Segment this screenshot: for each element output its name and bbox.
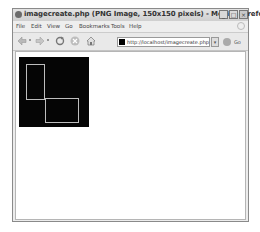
- forward-arrow-icon[interactable]: [35, 36, 45, 46]
- go-icon[interactable]: [223, 38, 231, 46]
- stop-icon[interactable]: [70, 36, 80, 46]
- browser-window: imagecreate.php (PNG Image, 150x150 pixe…: [12, 8, 249, 222]
- url-bar[interactable]: http://localhost/imagecreate.php: [117, 37, 210, 47]
- image-rectangle-2: [45, 98, 79, 123]
- url-history-dropdown[interactable]: ▾: [211, 37, 219, 47]
- menu-view[interactable]: View: [47, 23, 60, 29]
- maximize-button[interactable]: □: [229, 10, 238, 19]
- forward-dropdown-icon[interactable]: [47, 39, 49, 41]
- reload-icon[interactable]: [55, 36, 65, 46]
- back-arrow-icon[interactable]: [17, 36, 27, 46]
- firefox-icon: [15, 11, 22, 18]
- png-image: [19, 57, 89, 127]
- home-icon[interactable]: [86, 36, 96, 46]
- menu-bar: File Edit View Go Bookmarks Tools Help: [13, 21, 248, 33]
- page-content: [15, 51, 246, 220]
- close-button[interactable]: ×: [239, 10, 248, 19]
- back-dropdown-icon[interactable]: [29, 39, 31, 41]
- menu-help[interactable]: Help: [129, 23, 142, 29]
- page-favicon: [119, 39, 125, 45]
- image-rectangle-1: [26, 64, 45, 100]
- url-input[interactable]: http://localhost/imagecreate.php: [127, 39, 209, 45]
- navigation-toolbar: http://localhost/imagecreate.php ▾ Go: [13, 33, 248, 51]
- menu-tools[interactable]: Tools: [111, 23, 125, 29]
- throbber-icon: [237, 22, 245, 30]
- minimize-button[interactable]: _: [219, 10, 228, 19]
- menu-bookmarks[interactable]: Bookmarks: [79, 23, 110, 29]
- go-button[interactable]: Go: [234, 39, 241, 45]
- menu-go[interactable]: Go: [65, 23, 73, 29]
- menu-edit[interactable]: Edit: [31, 23, 42, 29]
- menu-file[interactable]: File: [16, 23, 25, 29]
